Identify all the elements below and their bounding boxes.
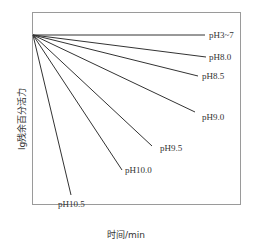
line-ph10-0 — [33, 35, 122, 170]
line-ph8-5 — [33, 35, 198, 76]
label-ph8-0: pH8.0 — [209, 52, 232, 62]
label-ph9-5: pH9.5 — [160, 143, 183, 153]
line-ph8-0 — [33, 35, 206, 57]
series-lines — [33, 35, 206, 195]
line-ph9-5 — [33, 35, 152, 146]
label-ph3-7: pH3~7 — [209, 30, 234, 40]
x-axis-label: 时间/min — [107, 229, 145, 240]
chart: pH3~7 pH8.0 pH8.5 pH9.0 pH9.5 pH10.0 pH1… — [0, 0, 258, 251]
y-axis-label: lg残余百分活力 — [16, 88, 27, 150]
label-ph10-0: pH10.0 — [125, 165, 152, 175]
plot-frame — [33, 13, 241, 205]
label-ph8-5: pH8.5 — [202, 71, 225, 81]
label-ph10-5: pH10.5 — [58, 199, 85, 209]
label-ph9-0: pH9.0 — [202, 112, 225, 122]
line-ph9-0 — [33, 35, 195, 112]
line-ph10-5 — [33, 35, 71, 195]
